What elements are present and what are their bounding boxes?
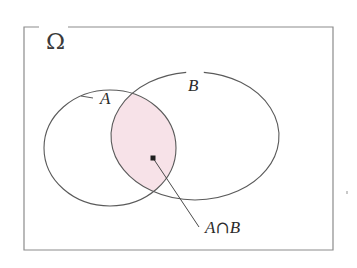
set-a-label-leader-line bbox=[81, 96, 93, 98]
universe-label-omega: Ω bbox=[46, 28, 65, 54]
intersection-operator-icon: ∩ bbox=[215, 217, 229, 237]
set-b-label: B bbox=[188, 76, 199, 95]
set-a-label: A bbox=[99, 89, 111, 108]
intersection-label-right-operand: B bbox=[230, 218, 241, 237]
scan-speck-artifact bbox=[346, 191, 348, 194]
venn-diagram-figure: Ω A B A∩B bbox=[0, 0, 357, 268]
universe-box bbox=[24, 27, 333, 250]
universe-border-left-segment bbox=[24, 27, 333, 250]
venn-diagram-canvas: Ω A B A∩B bbox=[0, 0, 357, 268]
intersection-marker-dot bbox=[151, 156, 156, 161]
intersection-leader-line bbox=[153, 158, 199, 227]
intersection-label: A∩B bbox=[204, 217, 241, 237]
intersection-label-left-operand: A bbox=[204, 218, 216, 237]
